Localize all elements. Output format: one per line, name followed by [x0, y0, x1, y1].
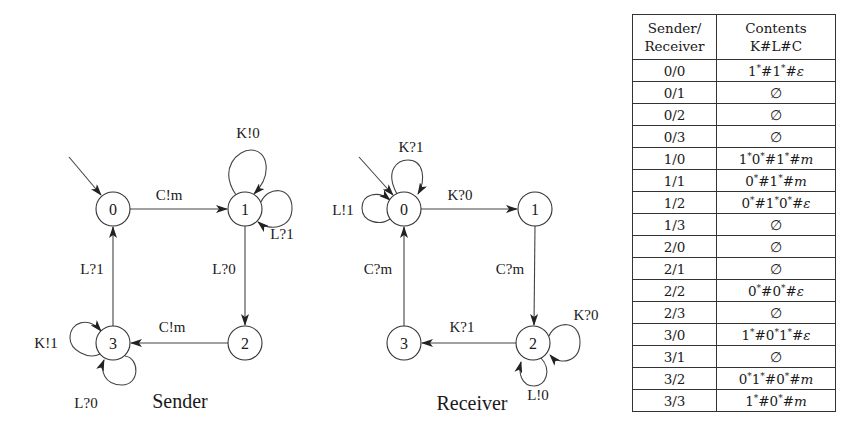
state-pair-cell: 2/3 [633, 302, 717, 324]
table-row: 1/3∅ [633, 214, 836, 236]
state-pair-cell: 3/2 [633, 368, 717, 390]
sender-edge-1-2-label: L?0 [212, 261, 235, 277]
receiver-loop-0-k1 [392, 160, 423, 194]
receiver-state-3: 3 [387, 326, 421, 360]
receiver-edge-2-3-label: K?1 [450, 319, 475, 335]
svg-text:1: 1 [241, 201, 249, 218]
contents-cell: ∅ [717, 82, 836, 104]
table-row: 3/31*#0*#m [633, 390, 836, 412]
contents-cell: ∅ [717, 126, 836, 148]
contents-cell: ∅ [717, 258, 836, 280]
receiver-loop-0-l1-label: L!1 [332, 202, 354, 218]
svg-text:3: 3 [400, 335, 408, 352]
table-row: 0/3∅ [633, 126, 836, 148]
contents-cell: 1*#0*1*#ε [717, 324, 836, 346]
svg-text:2: 2 [241, 335, 249, 352]
state-pair-cell: 3/1 [633, 346, 717, 368]
sender-state-3: 3 [96, 326, 130, 360]
contents-cell: 1*0*#1*#m [717, 148, 836, 170]
receiver-loop-2-l0-label: L!0 [527, 387, 549, 403]
sender-loop-1-l1-label: L?1 [270, 226, 293, 242]
table-row: 3/1∅ [633, 346, 836, 368]
svg-text:1: 1 [531, 201, 539, 218]
receiver-edge-1-2-label: C?m [496, 261, 525, 277]
sender-loop-1-k0-label: K!0 [236, 125, 259, 141]
contents-cell: ∅ [717, 104, 836, 126]
table-row: 0/01*#1*#ε [633, 60, 836, 82]
header-sender-receiver: Sender/ Receiver [633, 15, 717, 60]
table-row: 0/2∅ [633, 104, 836, 126]
receiver-edge-1-2 [534, 226, 535, 325]
table-header-row: Sender/ Receiver Contents K#L#C [633, 15, 836, 60]
contents-cell: 0*#1*0*#ε [717, 192, 836, 214]
state-pair-cell: 2/2 [633, 280, 717, 302]
table-row: 1/20*#1*0*#ε [633, 192, 836, 214]
sender-edge-0-1-label: C!m [156, 187, 183, 203]
contents-cell: ∅ [717, 214, 836, 236]
state-pair-cell: 3/3 [633, 390, 717, 412]
sender-state-2: 2 [228, 326, 262, 360]
sender-loop-3-l0-label: L?0 [74, 395, 97, 411]
header-contents-line: Contents [717, 19, 835, 37]
channel-contents-table: Sender/ Receiver Contents K#L#C 0/01*#1*… [632, 14, 836, 412]
channel-contents-table-wrapper: Sender/ Receiver Contents K#L#C 0/01*#1*… [632, 14, 836, 412]
table-row: 2/0∅ [633, 236, 836, 258]
contents-cell: ∅ [717, 236, 836, 258]
table-row: 2/20*#0*#ε [633, 280, 836, 302]
receiver-edge-0-1-label: K?0 [448, 187, 473, 203]
header-sender-line: Sender/ [633, 19, 716, 37]
table-row: 0/1∅ [633, 82, 836, 104]
sender-loop-3-k1-label: K!1 [34, 335, 57, 351]
sender-state-1: 1 [228, 192, 262, 226]
receiver-state-1: 1 [518, 192, 552, 226]
contents-cell: 0*#1*#m [717, 170, 836, 192]
receiver-loop-2-l0 [520, 358, 547, 386]
receiver-loop-2-k0-label: K?0 [574, 307, 599, 323]
sender-loop-3-l0 [103, 356, 136, 385]
contents-cell: 0*1*#0*#m [717, 368, 836, 390]
sender-state-0: 0 [96, 192, 130, 226]
table-row: 2/1∅ [633, 258, 836, 280]
contents-cell: 0*#0*#ε [717, 280, 836, 302]
receiver-loop-0-l1 [362, 194, 390, 222]
sender-edge-3-0-label: L?1 [80, 261, 103, 277]
svg-text:0: 0 [109, 201, 117, 218]
state-pair-cell: 0/3 [633, 126, 717, 148]
state-pair-cell: 1/1 [633, 170, 717, 192]
state-pair-cell: 1/0 [633, 148, 717, 170]
receiver-initial-arrow [359, 157, 393, 195]
header-receiver-line: Receiver [633, 37, 716, 55]
receiver-state-0: 0 [387, 192, 421, 226]
contents-cell: 1*#1*#ε [717, 60, 836, 82]
sender-caption: Sender [152, 390, 208, 412]
table-row: 2/3∅ [633, 302, 836, 324]
sender-loop-1-l1 [258, 191, 292, 228]
table-row: 3/01*#0*1*#ε [633, 324, 836, 346]
state-pair-cell: 0/2 [633, 104, 717, 126]
receiver-loop-0-k1-label: K?1 [399, 139, 424, 155]
contents-cell: ∅ [717, 346, 836, 368]
state-pair-cell: 0/0 [633, 60, 717, 82]
svg-text:3: 3 [109, 335, 117, 352]
receiver-caption: Receiver [436, 392, 507, 414]
state-pair-cell: 2/1 [633, 258, 717, 280]
state-pair-cell: 3/0 [633, 324, 717, 346]
state-pair-cell: 1/2 [633, 192, 717, 214]
svg-text:0: 0 [400, 201, 408, 218]
header-klc-line: K#L#C [717, 37, 835, 55]
sender-edge-2-3-label: C!m [159, 319, 186, 335]
sender-automaton: C!m K!0 L?1 L?0 C!m K!1 L?0 L?1 0 1 [34, 125, 293, 412]
table-row: 1/01*0*#1*#m [633, 148, 836, 170]
sender-loop-1-k0 [229, 150, 266, 195]
state-pair-cell: 1/3 [633, 214, 717, 236]
sender-initial-arrow [69, 157, 101, 195]
table-row: 3/20*1*#0*#m [633, 368, 836, 390]
contents-cell: ∅ [717, 302, 836, 324]
header-contents: Contents K#L#C [717, 15, 836, 60]
receiver-automaton: K?1 L!1 K?0 C?m K?0 L!0 K?1 C?m 0 1 [332, 139, 598, 414]
state-pair-cell: 2/0 [633, 236, 717, 258]
table-body: 0/01*#1*#ε0/1∅0/2∅0/3∅1/01*0*#1*#m1/10*#… [633, 60, 836, 412]
svg-text:2: 2 [529, 335, 537, 352]
receiver-loop-2-k0 [549, 325, 580, 361]
receiver-edge-3-0-label: C?m [364, 261, 393, 277]
